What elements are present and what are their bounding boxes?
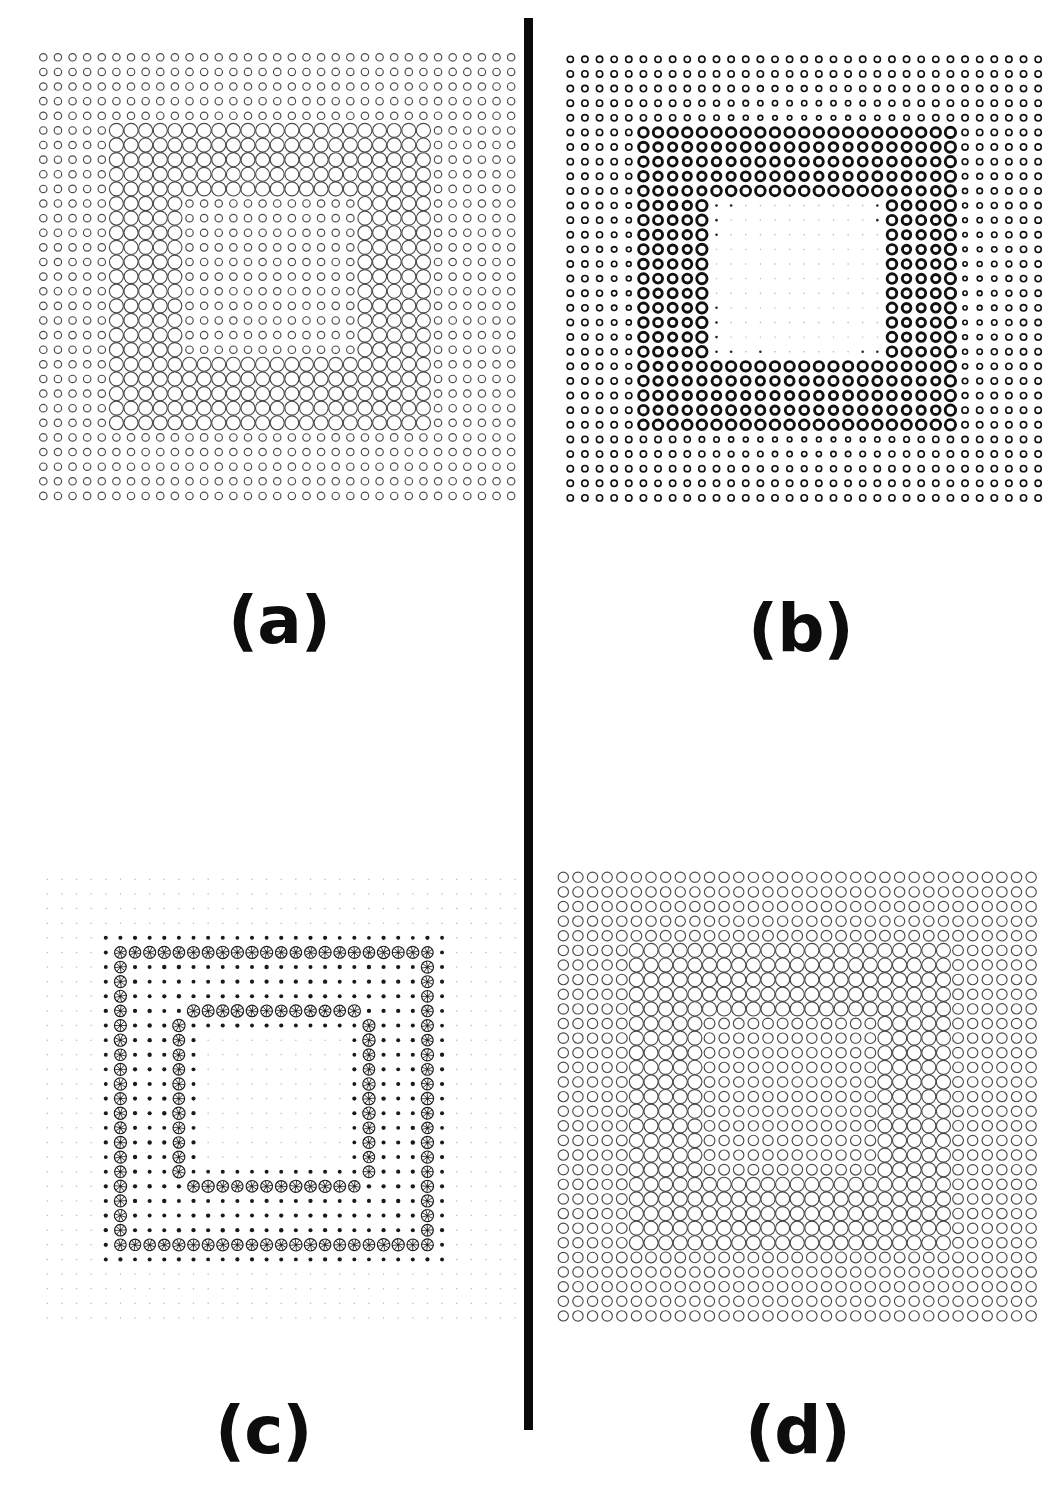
panel-a-label: (a)	[228, 588, 330, 654]
panel-b-label: (b)	[748, 596, 853, 662]
panel-d	[533, 840, 1062, 1390]
panel-d-circle-grid	[533, 840, 1062, 1390]
panel-c-circle-grid	[0, 840, 524, 1390]
panel-a-circle-grid	[0, 0, 524, 580]
panel-d-label: (d)	[745, 1398, 850, 1464]
panel-a	[0, 0, 524, 580]
panel-b	[533, 0, 1062, 580]
panel-c	[0, 840, 524, 1390]
vertical-divider	[524, 18, 533, 1430]
panel-c-label: (c)	[215, 1398, 311, 1464]
figure-root: (a) (b) (c) (d)	[0, 0, 1062, 1498]
panel-b-circle-grid	[533, 0, 1062, 580]
